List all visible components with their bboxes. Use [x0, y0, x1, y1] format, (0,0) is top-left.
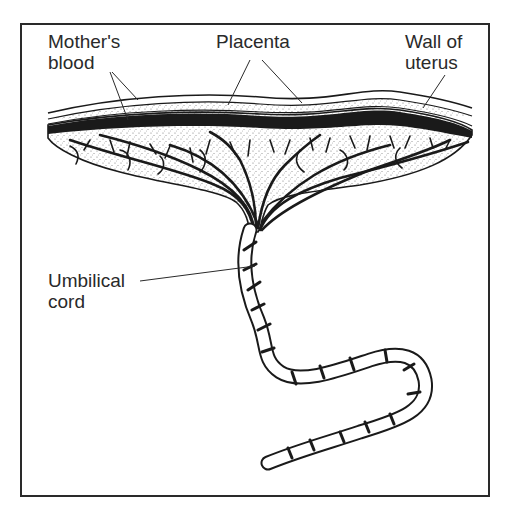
umbilical-cord	[244, 230, 426, 463]
label-wall-of-uterus-line2: uterus	[405, 52, 458, 73]
placenta-illustration	[0, 0, 517, 509]
leader-placenta-1	[228, 60, 250, 105]
leader-wall-of-uterus	[423, 75, 445, 108]
leader-placenta-2	[262, 60, 302, 103]
label-umbilical-cord-line2: cord	[48, 291, 85, 312]
label-placenta: Placenta	[216, 31, 290, 52]
placenta-body	[48, 108, 472, 232]
leader-umbilical-cord	[140, 266, 255, 281]
label-wall-of-uterus-line1: Wall of	[405, 31, 462, 52]
label-mothers-blood-line1: Mother's	[48, 31, 120, 52]
label-umbilical-cord-line1: Umbilical	[48, 270, 125, 291]
leader-mothers-blood-2	[112, 72, 138, 100]
label-mothers-blood-line2: blood	[48, 52, 95, 73]
